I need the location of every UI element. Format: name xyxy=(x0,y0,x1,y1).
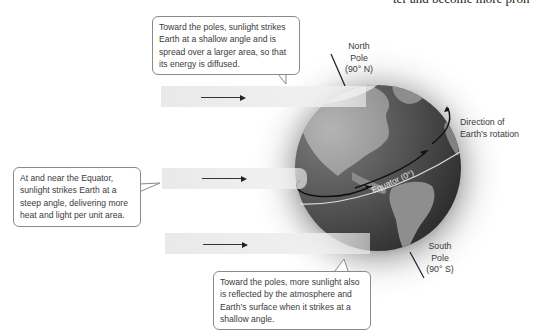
right-arrow-icon xyxy=(201,97,241,98)
north-pole-label-line: North xyxy=(338,41,380,53)
callout-polar-reflection: Toward the poles, more sunlight also is … xyxy=(213,271,371,330)
rotation-label-line: Earth’s rotation xyxy=(460,129,539,141)
north-pole-label-line: Pole xyxy=(338,53,380,65)
rotation-label-line: Direction of xyxy=(460,117,539,129)
callout-equator-steep-angle: At and near the Equator, sunlight strike… xyxy=(13,167,141,227)
sunlight-beam-south xyxy=(165,233,370,254)
rotation-label: Direction of Earth’s rotation xyxy=(460,117,539,140)
south-pole-label-line: Pole xyxy=(420,253,460,265)
right-arrow-icon xyxy=(203,244,243,245)
left-callout-pointer xyxy=(139,183,160,192)
callout-polar-diffusion: Toward the poles, sunlight strikes Earth… xyxy=(152,16,300,75)
north-pole-label-line: (90° N) xyxy=(338,64,380,76)
south-pole-label: South Pole (90° S) xyxy=(420,241,460,276)
sunlight-beam-north xyxy=(161,86,366,107)
south-pole-label-line: South xyxy=(420,241,460,253)
south-pole-label-line: (90° S) xyxy=(420,264,460,276)
north-pole-label: North Pole (90° N) xyxy=(338,41,380,76)
right-arrow-icon xyxy=(202,178,242,179)
